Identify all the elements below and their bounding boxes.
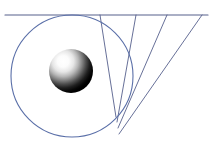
shaded-sphere: [49, 49, 93, 93]
diagram-canvas: Tangent lines from a point to a circle w…: [0, 0, 215, 144]
diagram-svg: [0, 0, 215, 144]
